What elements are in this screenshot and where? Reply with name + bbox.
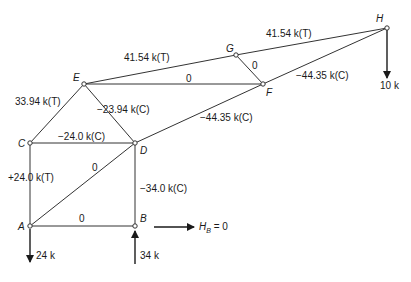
joint-G xyxy=(234,53,238,57)
force-label-ED: −23.94 k(C) xyxy=(97,104,150,115)
joint-H xyxy=(385,26,389,30)
force-label-GF: 0 xyxy=(252,60,258,71)
reaction-value: = 0 xyxy=(211,221,228,232)
force-label-EG: 41.54 k(T) xyxy=(124,52,170,63)
force-label-AD: 0 xyxy=(92,162,98,173)
joint-C xyxy=(28,141,32,145)
joint-A xyxy=(28,224,32,228)
force-label-DF: −44.35 k(C) xyxy=(200,112,253,123)
member-GF xyxy=(236,55,263,84)
joint-E xyxy=(82,82,86,86)
reaction-label-HB: HB = 0 xyxy=(199,221,228,236)
force-label-AB: 0 xyxy=(79,213,85,224)
joint-F xyxy=(261,82,265,86)
joint-D xyxy=(133,141,137,145)
node-label-C: C xyxy=(18,138,25,149)
force-label-FH: −44.35 k(C) xyxy=(296,70,349,81)
load-label-A: 24 k xyxy=(36,250,55,261)
node-label-B: B xyxy=(140,213,147,224)
node-label-G: G xyxy=(226,43,234,54)
load-label-H: 10 k xyxy=(380,80,399,91)
joint-B xyxy=(133,224,137,228)
force-label-CD: −24.0 k(C) xyxy=(58,131,105,142)
node-label-A: A xyxy=(18,221,25,232)
force-label-GH: 41.54 k(T) xyxy=(266,28,312,39)
force-label-BD: −34.0 k(C) xyxy=(140,183,187,194)
node-label-H: H xyxy=(376,13,383,24)
force-label-EF: 0 xyxy=(186,73,192,84)
reaction-label-B: 34 k xyxy=(140,250,159,261)
node-label-E: E xyxy=(73,72,80,83)
force-label-AC: +24.0 k(T) xyxy=(8,172,54,183)
node-label-F: F xyxy=(266,87,272,98)
force-label-CE: 33.94 k(T) xyxy=(15,96,61,107)
node-label-D: D xyxy=(140,145,147,156)
